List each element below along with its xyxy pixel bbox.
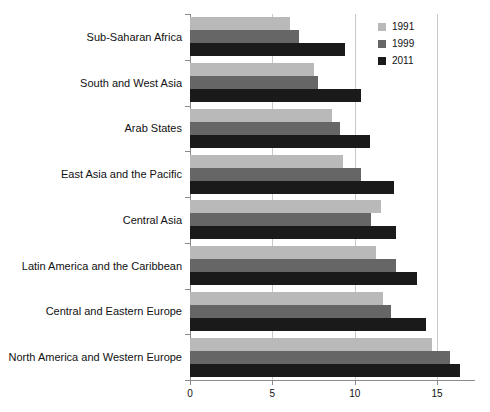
bar-chart: Sub-Saharan AfricaSouth and West AsiaAra… [0,0,490,412]
legend-label: 1991 [392,22,414,32]
bar-group [190,246,475,285]
bar-2011 [190,135,370,148]
category-label: East Asia and the Pacific [61,168,182,180]
x-tick-mark [272,380,273,385]
legend-item: 2011 [378,52,414,69]
bar-group [190,63,475,102]
bar-group [190,292,475,331]
bar-2011 [190,43,345,56]
legend-label: 2011 [392,56,414,66]
plot-area [190,14,475,380]
bar-2011 [190,318,426,331]
y-tick-mark [185,334,190,335]
x-tick-mark [437,380,438,385]
bar-1991 [190,246,376,259]
bar-group [190,109,475,148]
category-label: Central and Eastern Europe [46,305,182,317]
x-tick-label: 15 [432,388,443,399]
legend-item: 1991 [378,18,414,35]
legend-swatch-icon [378,40,386,48]
legend-swatch-icon [378,23,386,31]
bar-group [190,17,475,56]
category-label: South and West Asia [80,77,182,89]
x-tick-label: 10 [349,388,360,399]
category-axis-labels: Sub-Saharan AfricaSouth and West AsiaAra… [0,0,190,412]
bar-2011 [190,364,460,377]
bar-1999 [190,259,396,272]
bar-1991 [190,338,432,351]
x-tick-label: 0 [187,388,193,399]
bar-1991 [190,63,314,76]
legend-item: 1999 [378,35,414,52]
bar-1999 [190,168,361,181]
y-tick-mark [185,243,190,244]
bar-group [190,338,475,377]
x-tick-mark [190,380,191,385]
bar-1991 [190,109,332,122]
category-label: North America and Western Europe [9,351,182,363]
category-label: Arab States [125,122,182,134]
bar-1999 [190,305,391,318]
bar-1999 [190,213,371,226]
category-label: Latin America and the Caribbean [22,260,182,272]
bar-1999 [190,30,299,43]
y-tick-mark [185,197,190,198]
x-tick-label: 5 [270,388,276,399]
bar-1991 [190,155,343,168]
y-tick-mark [185,14,190,15]
bar-group [190,200,475,239]
bar-group [190,155,475,194]
legend-swatch-icon [378,57,386,65]
x-axis-line [190,380,475,381]
bar-1999 [190,122,340,135]
x-tick-mark [355,380,356,385]
legend-label: 1999 [392,39,414,49]
bar-2011 [190,181,394,194]
bar-1991 [190,292,383,305]
bar-1999 [190,76,318,89]
bar-1991 [190,17,290,30]
y-tick-mark [185,151,190,152]
bar-2011 [190,226,396,239]
y-tick-mark [185,289,190,290]
y-tick-mark [185,380,190,381]
bar-1999 [190,351,450,364]
category-label: Sub-Saharan Africa [87,31,182,43]
bar-2011 [190,89,361,102]
y-tick-mark [185,60,190,61]
bar-2011 [190,272,417,285]
category-label: Central Asia [123,214,182,226]
y-tick-mark [185,106,190,107]
bar-1991 [190,200,381,213]
chart-legend: 199119992011 [378,18,414,69]
